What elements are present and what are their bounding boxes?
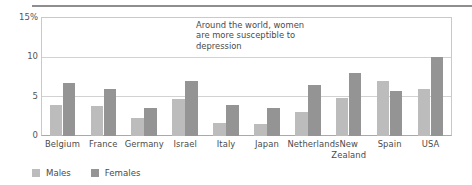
x-label-israel: Israel xyxy=(165,139,206,150)
y-tick-0: 0 xyxy=(8,131,38,140)
chart-figure: 15% 10 5 0 BelgiumFranceGermanyIsraelIta… xyxy=(0,0,472,185)
bar-netherlands-males xyxy=(295,112,308,136)
bar-japan-males xyxy=(254,124,267,136)
bar-new-zealand-males xyxy=(336,98,349,136)
bar-spain-females xyxy=(390,91,403,136)
x-label-belgium: Belgium xyxy=(42,139,83,150)
bar-spain-males xyxy=(377,81,390,136)
bar-usa-females xyxy=(431,57,444,136)
y-tick-10: 10 xyxy=(8,52,38,61)
bar-group xyxy=(42,18,83,136)
bar-israel-males xyxy=(172,99,185,136)
x-label-germany: Germany xyxy=(124,139,165,150)
x-label-spain: Spain xyxy=(369,139,410,150)
bar-belgium-females xyxy=(63,83,76,136)
bar-germany-females xyxy=(144,108,157,136)
bar-group xyxy=(83,18,124,136)
chart-legend: MalesFemales xyxy=(32,166,160,180)
legend-label: Females xyxy=(105,168,141,178)
annotation-line-1: Around the world, women xyxy=(196,20,346,30)
legend-swatch-icon xyxy=(91,169,99,177)
x-label-usa: USA xyxy=(410,139,451,150)
x-label-france: France xyxy=(83,139,124,150)
bar-italy-males xyxy=(213,123,226,136)
y-tick-15: 15% xyxy=(8,13,38,22)
legend-item-females[interactable]: Females xyxy=(91,168,141,178)
bar-israel-females xyxy=(185,81,198,136)
legend-label: Males xyxy=(46,168,71,178)
annotation-line-2: are more susceptible to xyxy=(196,30,346,40)
annotation-line-3: depression xyxy=(196,41,346,51)
bar-usa-males xyxy=(418,89,431,136)
y-tick-5: 5 xyxy=(8,92,38,101)
legend-item-males[interactable]: Males xyxy=(32,168,71,178)
y-axis: 15% 10 5 0 xyxy=(0,0,38,185)
legend-swatch-icon xyxy=(32,169,40,177)
x-axis-labels: BelgiumFranceGermanyIsraelItalyJapanNeth… xyxy=(42,139,451,163)
bar-netherlands-females xyxy=(308,85,321,136)
bar-belgium-males xyxy=(50,105,63,136)
header-divider xyxy=(32,5,472,7)
bar-new-zealand-females xyxy=(349,73,362,136)
x-label-japan: Japan xyxy=(247,139,288,150)
x-label-new-zealand: New Zealand xyxy=(328,139,369,160)
x-label-netherlands: Netherlands xyxy=(287,139,328,150)
bar-group xyxy=(124,18,165,136)
x-label-italy: Italy xyxy=(206,139,247,150)
bar-italy-females xyxy=(226,105,239,136)
bar-germany-males xyxy=(131,118,144,136)
bar-japan-females xyxy=(267,108,280,136)
bar-france-males xyxy=(91,106,104,136)
bar-group xyxy=(369,18,410,136)
chart-annotation: Around the world, women are more suscept… xyxy=(196,20,346,51)
bar-france-females xyxy=(104,89,117,136)
bar-group xyxy=(410,18,451,136)
